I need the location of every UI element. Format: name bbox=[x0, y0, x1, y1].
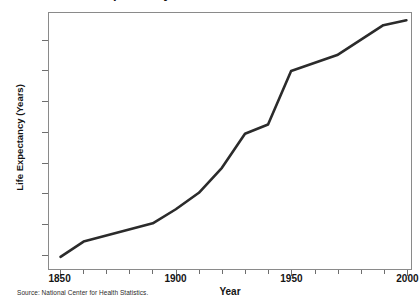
x-tick-mark-minor bbox=[129, 270, 130, 274]
x-tick-label: 2000 bbox=[377, 274, 420, 284]
source-note: Source: National Center for Health Stati… bbox=[17, 289, 148, 296]
x-tick-label: 1900 bbox=[146, 274, 206, 284]
x-tick-mark-minor bbox=[338, 270, 339, 274]
y-axis-title: Life Expectancy (Years) bbox=[14, 63, 25, 213]
plot-area bbox=[48, 12, 412, 270]
life-expectancy-line bbox=[61, 20, 407, 256]
x-tick-mark-minor bbox=[361, 270, 362, 274]
x-tick-label: 1850 bbox=[30, 274, 90, 284]
x-tick-mark-minor bbox=[106, 270, 107, 274]
data-line-svg bbox=[49, 13, 411, 269]
chart-title: Life Expectancy at Birth in the United S… bbox=[0, 0, 420, 1]
x-tick-mark-minor bbox=[222, 270, 223, 274]
x-tick-mark-minor bbox=[245, 270, 246, 274]
x-tick-label: 1950 bbox=[261, 274, 321, 284]
chart-figure: Life Expectancy at Birth in the United S… bbox=[0, 0, 420, 304]
